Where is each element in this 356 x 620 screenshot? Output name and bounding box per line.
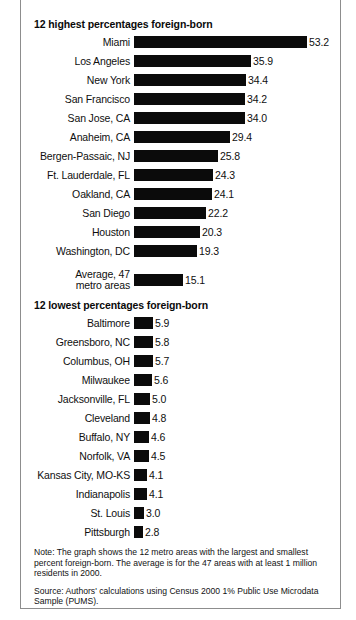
bar-value-label: 5.0 — [152, 393, 166, 405]
bar-row: St. Louis3.0 — [21, 504, 340, 523]
bar-value-label: 4.1 — [149, 469, 163, 481]
bar — [134, 169, 213, 181]
bar — [134, 55, 251, 67]
bar-value-label: 5.7 — [155, 355, 169, 367]
bar-row: Bergen-Passaic, NJ25.8 — [21, 147, 340, 166]
bar-row: Indianapolis4.1 — [21, 485, 340, 504]
bar — [134, 374, 152, 386]
bar-row-label: Buffalo, NY — [79, 431, 130, 443]
bar-track: 15.1 — [134, 274, 340, 286]
bar-track: 4.5 — [134, 450, 340, 462]
bar-row-label: Kansas City, MO-KS — [37, 469, 130, 481]
bar-row: Pittsburgh2.8 — [21, 523, 340, 542]
bar-row: San Jose, CA34.0 — [21, 109, 340, 128]
bar-row-label: San Jose, CA — [68, 112, 130, 124]
bar-row: Houston20.3 — [21, 223, 340, 242]
note-text: Note: The graph shows the 12 metro areas… — [34, 547, 328, 579]
bar — [134, 412, 150, 424]
bar-value-label: 24.3 — [215, 169, 235, 181]
bar-row: Washington, DC19.3 — [21, 242, 340, 261]
bar — [134, 207, 206, 219]
bar-value-label: 4.5 — [151, 450, 165, 462]
bar-row: Ft. Lauderdale, FL24.3 — [21, 166, 340, 185]
bar-row-label: Bergen-Passaic, NJ — [40, 150, 130, 162]
bar-row-label: St. Louis — [90, 507, 130, 519]
bar-value-label: 24.1 — [214, 188, 234, 200]
bar-value-label: 22.2 — [208, 207, 228, 219]
bar-track: 5.6 — [134, 374, 340, 386]
bar-row: Average, 47metro areas15.1 — [21, 271, 340, 290]
bar-value-label: 4.8 — [152, 412, 166, 424]
bar-row-label: Anaheim, CA — [70, 131, 130, 143]
bar-value-label: 3.0 — [146, 507, 160, 519]
bar — [134, 74, 246, 86]
bar-row-label: Cleveland — [85, 412, 130, 424]
bar-row-label: Jacksonville, FL — [58, 393, 130, 405]
bar-row: Cleveland4.8 — [21, 409, 340, 428]
bar-track: 25.8 — [134, 150, 340, 162]
bar-track: 20.3 — [134, 226, 340, 238]
bar-value-label: 5.8 — [155, 336, 169, 348]
bar-row: Jacksonville, FL5.0 — [21, 390, 340, 409]
bar — [134, 36, 307, 48]
bar-value-label: 20.3 — [202, 226, 222, 238]
bar-track: 4.6 — [134, 431, 340, 443]
bar-row: Oakland, CA24.1 — [21, 185, 340, 204]
bar-row: San Francisco34.2 — [21, 90, 340, 109]
bar-track: 5.0 — [134, 393, 340, 405]
bar-value-label: 2.8 — [145, 526, 159, 538]
bar-rows-lowest: Baltimore5.9Greensboro, NC5.8Columbus, O… — [21, 314, 340, 542]
bar-row-label: Miami — [103, 36, 130, 48]
bar-row: Greensboro, NC5.8 — [21, 333, 340, 352]
bar-row-label: Baltimore — [87, 317, 130, 329]
bar-row: Miami53.2 — [21, 33, 340, 52]
bar-row-label: New York — [87, 74, 130, 86]
bar — [134, 526, 143, 538]
bar-row: Los Angeles35.9 — [21, 52, 340, 71]
bar-track: 2.8 — [134, 526, 340, 538]
chart-figure-frame: 12 highest percentages foreign-born Miam… — [20, 0, 341, 609]
bar-rows-average: Average, 47metro areas15.1 — [21, 271, 340, 290]
bar — [134, 488, 147, 500]
bar-track: 22.2 — [134, 207, 340, 219]
bar-row: Kansas City, MO-KS4.1 — [21, 466, 340, 485]
bar-value-label: 25.8 — [220, 150, 240, 162]
bar-row-label: Ft. Lauderdale, FL — [47, 169, 130, 181]
bar-track: 4.8 — [134, 412, 340, 424]
bar — [134, 131, 230, 143]
bar-row-label: Columbus, OH — [63, 355, 130, 367]
bar-row-label: Houston — [92, 226, 130, 238]
bar-value-label: 4.6 — [151, 431, 165, 443]
bar-row-label: Pittsburgh — [84, 526, 130, 538]
bar-rows-highest: Miami53.2Los Angeles35.9New York34.4San … — [21, 33, 340, 261]
bar-track: 34.0 — [134, 112, 340, 124]
bar — [134, 188, 212, 200]
bar-row-label: Indianapolis — [76, 488, 130, 500]
bar — [134, 93, 245, 105]
bar — [134, 355, 153, 367]
bar-row-label: Greensboro, NC — [56, 336, 130, 348]
bar-value-label: 5.6 — [154, 374, 168, 386]
bar — [134, 393, 150, 405]
bar-row: San Diego22.2 — [21, 204, 340, 223]
bar — [134, 317, 153, 329]
bar-track: 4.1 — [134, 488, 340, 500]
bar-row-label: Los Angeles — [74, 55, 130, 67]
bar — [134, 245, 197, 257]
bar-value-label: 29.4 — [232, 131, 252, 143]
bar-track: 3.0 — [134, 507, 340, 519]
bar-value-label: 34.4 — [248, 74, 268, 86]
section-heading-lowest: 12 lowest percentages foreign-born — [34, 299, 208, 311]
bar-row-label: Oakland, CA — [72, 188, 130, 200]
bar-value-label: 5.9 — [155, 317, 169, 329]
source-text: Source: Authors' calculations using Cens… — [34, 586, 328, 607]
bar-row: Anaheim, CA29.4 — [21, 128, 340, 147]
bar-value-label: 34.0 — [247, 112, 267, 124]
bar-track: 53.2 — [134, 36, 340, 48]
bar-track: 5.8 — [134, 336, 340, 348]
bar — [134, 336, 153, 348]
bar-row-label: San Francisco — [65, 93, 130, 105]
bar-row: Milwaukee5.6 — [21, 371, 340, 390]
bar-track: 34.4 — [134, 74, 340, 86]
bar-value-label: 34.2 — [247, 93, 267, 105]
